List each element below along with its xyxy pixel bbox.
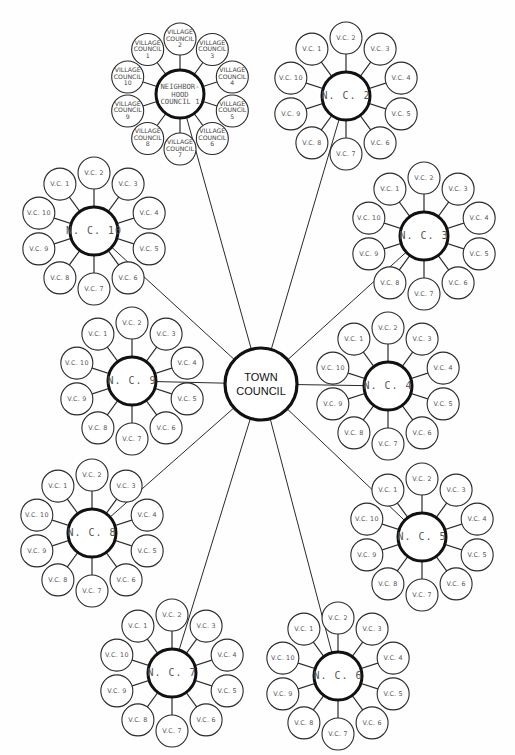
village-council-node[interactable] xyxy=(132,122,164,154)
village-council-node[interactable] xyxy=(23,233,55,265)
village-council-node[interactable] xyxy=(150,412,182,444)
village-council-node[interactable] xyxy=(427,352,459,384)
village-council-node[interactable] xyxy=(133,197,165,229)
village-council-node[interactable] xyxy=(76,575,108,607)
village-council-node[interactable] xyxy=(112,95,144,127)
village-council-node[interactable] xyxy=(442,173,474,205)
neighborhood-council-node[interactable] xyxy=(156,70,204,118)
village-council-node[interactable] xyxy=(406,417,438,449)
village-council-node[interactable] xyxy=(110,564,142,596)
village-council-node[interactable] xyxy=(463,238,495,270)
village-council-node[interactable] xyxy=(156,715,188,747)
village-council-node[interactable] xyxy=(385,98,417,130)
village-council-node[interactable] xyxy=(122,704,154,736)
village-council-node[interactable] xyxy=(44,168,76,200)
village-council-node[interactable] xyxy=(356,613,388,645)
village-council-node[interactable] xyxy=(330,22,362,54)
village-council-node[interactable] xyxy=(275,62,307,94)
village-council-node[interactable] xyxy=(112,61,144,93)
village-council-node[interactable] xyxy=(171,383,203,415)
village-council-node[interactable] xyxy=(427,388,459,420)
village-council-node[interactable] xyxy=(190,704,222,736)
village-council-node[interactable] xyxy=(216,95,248,127)
village-council-node[interactable] xyxy=(372,428,404,460)
neighborhood-council-node[interactable] xyxy=(148,649,196,697)
village-council-node[interactable] xyxy=(377,642,409,674)
village-council-node[interactable] xyxy=(440,568,472,600)
village-council-node[interactable] xyxy=(377,678,409,710)
village-council-node[interactable] xyxy=(374,173,406,205)
village-council-node[interactable] xyxy=(408,162,440,194)
village-council-node[interactable] xyxy=(211,675,243,707)
village-council-node[interactable] xyxy=(317,352,349,384)
village-council-node[interactable] xyxy=(122,610,154,642)
village-council-node[interactable] xyxy=(406,579,438,611)
neighborhood-council-node[interactable] xyxy=(364,362,412,410)
village-council-node[interactable] xyxy=(132,34,164,66)
village-council-node[interactable] xyxy=(171,347,203,379)
village-council-node[interactable] xyxy=(196,122,228,154)
village-council-node[interactable] xyxy=(101,675,133,707)
village-council-node[interactable] xyxy=(275,98,307,130)
village-council-node[interactable] xyxy=(408,278,440,310)
village-council-node[interactable] xyxy=(330,138,362,170)
village-council-node[interactable] xyxy=(385,62,417,94)
village-council-node[interactable] xyxy=(156,599,188,631)
village-council-node[interactable] xyxy=(322,718,354,750)
village-council-node[interactable] xyxy=(296,33,328,65)
village-council-node[interactable] xyxy=(131,535,163,567)
neighborhood-council-node[interactable] xyxy=(400,212,448,260)
village-council-node[interactable] xyxy=(133,233,165,265)
village-council-node[interactable] xyxy=(463,202,495,234)
village-council-node[interactable] xyxy=(131,499,163,531)
village-council-node[interactable] xyxy=(164,133,196,165)
village-council-node[interactable] xyxy=(406,323,438,355)
village-council-node[interactable] xyxy=(364,33,396,65)
village-council-node[interactable] xyxy=(374,267,406,299)
village-council-node[interactable] xyxy=(461,503,493,535)
village-council-node[interactable] xyxy=(61,383,93,415)
village-council-node[interactable] xyxy=(338,323,370,355)
village-council-node[interactable] xyxy=(317,388,349,420)
village-council-node[interactable] xyxy=(351,539,383,571)
village-council-node[interactable] xyxy=(76,459,108,491)
village-council-node[interactable] xyxy=(353,238,385,270)
village-council-node[interactable] xyxy=(288,613,320,645)
neighborhood-council-node[interactable] xyxy=(322,72,370,120)
village-council-node[interactable] xyxy=(164,23,196,55)
village-council-node[interactable] xyxy=(21,499,53,531)
village-council-node[interactable] xyxy=(112,168,144,200)
neighborhood-council-node[interactable] xyxy=(108,357,156,405)
village-council-node[interactable] xyxy=(322,602,354,634)
village-council-node[interactable] xyxy=(356,707,388,739)
village-council-node[interactable] xyxy=(440,474,472,506)
village-council-node[interactable] xyxy=(372,568,404,600)
village-council-node[interactable] xyxy=(267,678,299,710)
village-council-node[interactable] xyxy=(23,197,55,229)
village-council-node[interactable] xyxy=(78,157,110,189)
village-council-node[interactable] xyxy=(211,639,243,671)
neighborhood-council-node[interactable] xyxy=(398,513,446,561)
village-council-node[interactable] xyxy=(288,707,320,739)
village-council-node[interactable] xyxy=(406,463,438,495)
village-council-node[interactable] xyxy=(296,127,328,159)
village-council-node[interactable] xyxy=(21,535,53,567)
village-council-node[interactable] xyxy=(82,318,114,350)
village-council-node[interactable] xyxy=(442,267,474,299)
village-council-node[interactable] xyxy=(78,273,110,305)
village-council-node[interactable] xyxy=(101,639,133,671)
village-council-node[interactable] xyxy=(338,417,370,449)
village-council-node[interactable] xyxy=(150,318,182,350)
village-council-node[interactable] xyxy=(42,564,74,596)
village-council-node[interactable] xyxy=(44,262,76,294)
town-council-node[interactable] xyxy=(225,348,297,420)
village-council-node[interactable] xyxy=(372,474,404,506)
neighborhood-council-node[interactable] xyxy=(70,207,118,255)
village-council-node[interactable] xyxy=(110,470,142,502)
village-council-node[interactable] xyxy=(196,34,228,66)
village-council-node[interactable] xyxy=(267,642,299,674)
village-council-node[interactable] xyxy=(353,202,385,234)
village-council-node[interactable] xyxy=(461,539,493,571)
village-council-node[interactable] xyxy=(82,412,114,444)
village-council-node[interactable] xyxy=(42,470,74,502)
